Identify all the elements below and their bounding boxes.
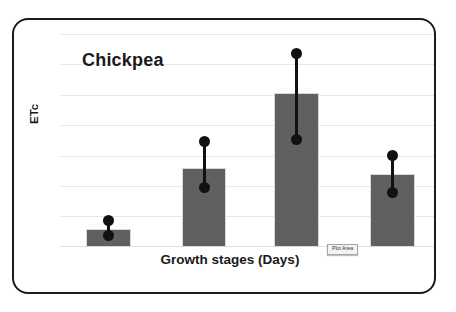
error-bar-cap-upper xyxy=(103,215,114,226)
error-bar-cap-lower xyxy=(199,182,210,193)
error-bar-line xyxy=(295,53,298,139)
bar-chart: Chickpea Growth stages (Days) ETc Plot A… xyxy=(14,20,434,292)
plot-area-tooltip: Plot Area xyxy=(327,244,358,255)
error-bar-cap-upper xyxy=(387,150,398,161)
gridline xyxy=(60,156,434,157)
gridline xyxy=(60,95,434,96)
error-bar-cap-lower xyxy=(103,230,114,241)
error-bar-cap-upper xyxy=(199,136,210,147)
gridline xyxy=(60,125,434,126)
error-bar-cap-lower xyxy=(387,187,398,198)
y-axis-title: ETc xyxy=(28,104,40,124)
chart-title: Chickpea xyxy=(82,50,164,71)
error-bar-line xyxy=(203,141,206,187)
gridline xyxy=(60,34,434,35)
chart-card: Chickpea Growth stages (Days) ETc Plot A… xyxy=(12,18,436,294)
x-axis-title: Growth stages (Days) xyxy=(14,252,434,267)
error-bar-cap-lower xyxy=(291,134,302,145)
error-bar-cap-upper xyxy=(291,48,302,59)
